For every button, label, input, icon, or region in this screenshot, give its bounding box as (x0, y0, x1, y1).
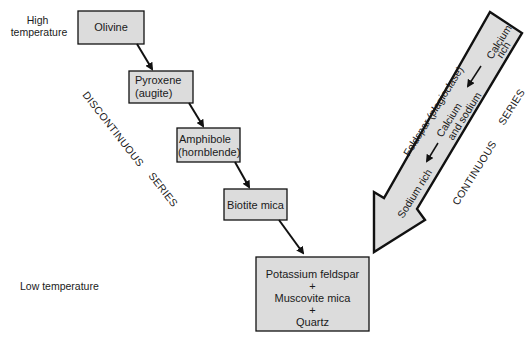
box-olivine: Olivine (78, 11, 144, 44)
continuous-series-label: SERIES (496, 87, 528, 128)
box-pyroxene: Pyroxene (augite) (129, 71, 193, 103)
svg-text:+: + (309, 304, 315, 316)
arrow-olivine-to-pyroxene (137, 44, 152, 69)
box-biotite: Biotite mica (224, 189, 287, 220)
svg-text:Potassium feldspar: Potassium feldspar (266, 268, 360, 280)
bowen-reaction-series-diagram: High temperature Low temperature DISCONT… (0, 0, 531, 339)
svg-text:Quartz: Quartz (296, 316, 329, 328)
continuous-label: CONTINUOUS (450, 138, 499, 207)
svg-text:Muscovite mica: Muscovite mica (275, 292, 352, 304)
arrow-biotite-to-final (279, 220, 303, 253)
svg-text:(augite): (augite) (135, 87, 172, 99)
svg-text:Amphibole: Amphibole (179, 133, 231, 145)
svg-text:Olivine: Olivine (94, 21, 128, 33)
box-final-minerals: Potassium feldspar + Muscovite mica + Qu… (256, 257, 369, 331)
arrow-amphibole-to-biotite (235, 162, 249, 187)
box-amphibole: Amphibole (hornblende) (177, 128, 240, 162)
svg-text:Pyroxene: Pyroxene (135, 74, 181, 86)
arrow-pyroxene-to-amphibole (189, 103, 203, 126)
discontinuous-series-label: SERIES (146, 170, 180, 209)
svg-text:(hornblende): (hornblende) (178, 146, 240, 158)
low-temperature-label: Low temperature (20, 280, 99, 292)
svg-text:+: + (309, 280, 315, 292)
high-temperature-label: High temperature (11, 14, 68, 38)
svg-text:Biotite mica: Biotite mica (227, 199, 285, 211)
